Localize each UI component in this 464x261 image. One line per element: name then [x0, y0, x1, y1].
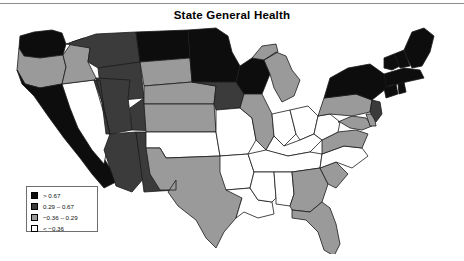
- legend-label-mid-high: 0.29 – 0.67: [43, 203, 74, 210]
- state-KS: [144, 104, 216, 132]
- legend-swatch-mid-high: [31, 203, 38, 210]
- state-NE: [144, 82, 216, 104]
- legend-item: −0.36 – 0.29: [31, 212, 97, 222]
- legend-swatch-mid-low: [31, 214, 38, 221]
- state-AL: [274, 172, 294, 206]
- legend-label-high: > 0.67: [43, 192, 60, 199]
- state-MN: [188, 28, 240, 82]
- state-MD: [338, 116, 372, 130]
- state-NY: [324, 64, 392, 100]
- state-WA: [19, 30, 66, 58]
- state-AR: [220, 154, 254, 190]
- legend-swatch-low: [31, 225, 38, 232]
- state-ND: [136, 30, 190, 62]
- state-WI: [236, 58, 270, 94]
- page-title: State General Health: [0, 9, 464, 22]
- figure-panel: State General Health: [0, 0, 464, 261]
- legend-item: 0.29 – 0.67: [31, 201, 97, 211]
- top-divider: [0, 3, 464, 4]
- legend-label-mid-low: −0.36 – 0.29: [43, 214, 78, 221]
- state-SD: [140, 58, 192, 86]
- legend-label-low: < −0.36: [43, 225, 64, 232]
- legend: > 0.67 0.29 – 0.67 −0.36 – 0.29 < −0.36: [26, 186, 98, 232]
- legend-swatch-high: [31, 192, 38, 199]
- legend-item: > 0.67: [31, 190, 97, 200]
- legend-item: < −0.36: [31, 223, 97, 233]
